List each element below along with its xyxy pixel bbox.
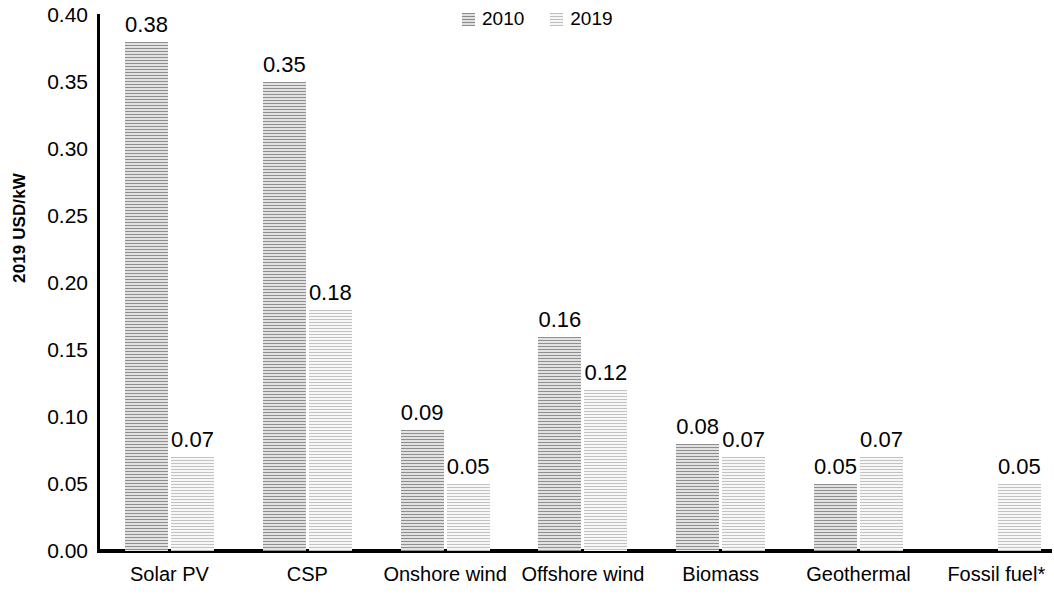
- x-axis-category-label: Fossil fuel*: [947, 563, 1045, 586]
- bar-value-label: 0.38: [125, 12, 168, 38]
- bar-value-label: 0.12: [584, 360, 627, 386]
- bar-2010-geothermal: [814, 484, 857, 551]
- bar-value-label: 0.09: [401, 400, 444, 426]
- bar-value-label: 0.18: [309, 280, 352, 306]
- x-axis-category-label: Biomass: [682, 563, 759, 586]
- bar-value-label: 0.05: [814, 454, 857, 480]
- bar-value-label: 0.08: [676, 414, 719, 440]
- bar-value-label: 0.05: [447, 454, 490, 480]
- plot-area: 0.380.07Solar PV0.350.18CSP0.090.05Onsho…: [0, 0, 1054, 595]
- bar-value-label: 0.16: [538, 307, 581, 333]
- bar-2010-biomass: [676, 444, 719, 551]
- x-axis-category-label: Geothermal: [806, 563, 911, 586]
- bar-2019-csp: [309, 310, 352, 551]
- bar-value-label: 0.05: [998, 454, 1041, 480]
- bar-2010-onshore-wind: [401, 430, 444, 551]
- bar-value-label: 0.35: [263, 52, 306, 78]
- bar-2019-fossil-fuel-: [998, 484, 1041, 551]
- bar-2019-offshore-wind: [584, 390, 627, 551]
- bar-2019-biomass: [722, 457, 765, 551]
- bar-value-label: 0.07: [860, 427, 903, 453]
- bar-value-label: 0.07: [171, 427, 214, 453]
- bar-value-label: 0.07: [722, 427, 765, 453]
- bar-2019-onshore-wind: [447, 484, 490, 551]
- bar-chart: 2019 USD/kW 0.400.350.300.250.200.150.10…: [0, 0, 1054, 595]
- x-axis-category-label: Onshore wind: [383, 563, 506, 586]
- bar-2010-csp: [263, 82, 306, 551]
- bar-2019-geothermal: [860, 457, 903, 551]
- x-axis-category-label: Solar PV: [130, 563, 209, 586]
- x-axis-category-label: Offshore wind: [521, 563, 644, 586]
- bar-2019-solar-pv: [171, 457, 214, 551]
- bar-2010-solar-pv: [125, 42, 168, 551]
- x-axis-category-label: CSP: [287, 563, 328, 586]
- bar-2010-offshore-wind: [538, 337, 581, 551]
